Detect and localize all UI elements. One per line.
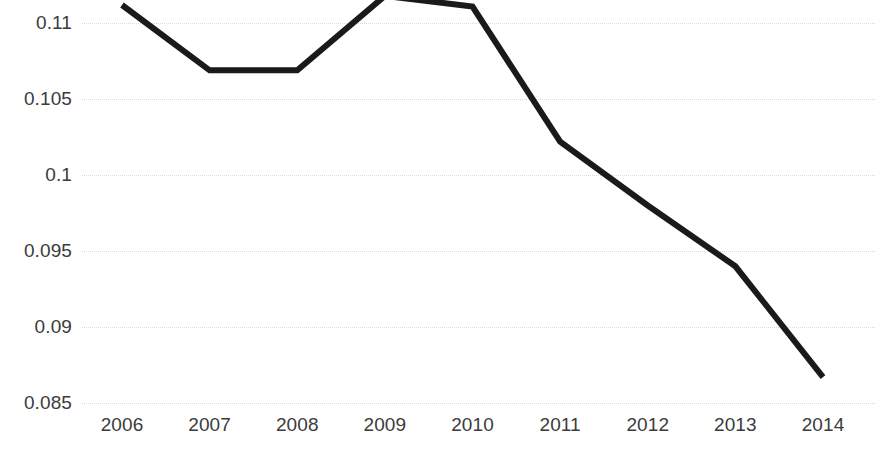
data-series-line: [122, 0, 823, 377]
line-chart: 0.0850.090.0950.10.1050.11 2006200720082…: [0, 0, 883, 462]
y-axis-tick-label: 0.09: [35, 316, 72, 338]
y-axis-tick-label: 0.095: [24, 240, 72, 262]
x-axis-tick-label: 2011: [539, 414, 580, 436]
x-axis-tick-label: 2007: [188, 414, 231, 436]
series-line-chart: [82, 0, 875, 403]
y-axis-tick-label: 0.105: [24, 88, 72, 110]
y-axis-tick-label: 0.11: [36, 12, 72, 34]
x-axis-tick-label: 2009: [364, 414, 407, 436]
x-axis-tick-label: 2013: [714, 414, 757, 436]
x-axis-tick-label: 2008: [276, 414, 319, 436]
x-axis: 200620072008200920102011201220132014: [0, 403, 883, 462]
y-axis: 0.0850.090.0950.10.1050.11: [0, 0, 72, 403]
x-axis-tick-label: 2014: [802, 414, 845, 436]
y-axis-tick-label: 0.1: [45, 164, 72, 186]
x-axis-tick-label: 2012: [626, 414, 669, 436]
x-axis-tick-label: 2010: [451, 414, 494, 436]
plot-area: [82, 0, 875, 403]
x-axis-tick-label: 2006: [101, 414, 144, 436]
